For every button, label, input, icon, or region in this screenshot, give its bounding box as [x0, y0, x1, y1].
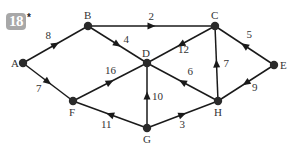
node-label-B: B	[84, 9, 91, 21]
node-C	[211, 22, 219, 30]
node-label-F: F	[69, 106, 75, 118]
edge-weight-B-C: 2	[149, 10, 155, 22]
edge-weight-E-H: 9	[252, 81, 258, 93]
node-label-C: C	[211, 9, 218, 21]
arrowhead-E-H-icon	[243, 78, 252, 85]
edge-weight-H-D: 6	[188, 65, 194, 77]
edge-weight-G-H: 3	[180, 118, 186, 130]
arrowhead-A-F-icon	[43, 77, 51, 85]
edge-weight-A-F: 7	[36, 82, 42, 94]
node-H	[214, 97, 222, 105]
node-A	[19, 59, 27, 67]
edge-weight-F-D: 16	[105, 64, 117, 76]
edge-weight-E-C: 5	[247, 28, 253, 40]
edge-weight-B-D: 4	[124, 33, 130, 45]
edge-weight-G-D: 10	[152, 90, 164, 102]
arrowhead-B-D-icon	[112, 39, 121, 46]
weighted-digraph: 87241257161110639ABCDEFGH	[0, 0, 292, 149]
node-label-E: E	[280, 59, 287, 71]
node-D	[143, 59, 151, 67]
node-label-H: H	[214, 106, 222, 118]
node-label-G: G	[143, 133, 151, 145]
node-E	[270, 61, 278, 69]
node-label-D: D	[142, 47, 150, 59]
edge-weight-H-C: 7	[224, 57, 230, 69]
arrowhead-G-D-icon	[144, 92, 151, 100]
arrowhead-H-C-icon	[213, 60, 220, 68]
node-F	[69, 97, 77, 105]
edge-weight-G-F: 11	[101, 118, 112, 130]
edge-weight-A-B: 8	[46, 29, 52, 41]
arrowhead-B-C-icon	[148, 23, 156, 30]
edge-weight-C-D: 12	[178, 43, 189, 55]
node-G	[143, 124, 151, 132]
node-label-A: A	[11, 57, 19, 69]
node-B	[84, 22, 92, 30]
arrowhead-E-C-icon	[241, 43, 250, 50]
